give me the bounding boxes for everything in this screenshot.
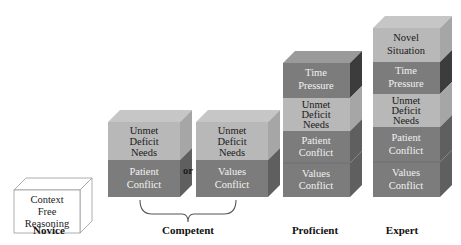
block-label: Unmet bbox=[130, 125, 159, 136]
block-label: Needs bbox=[303, 119, 329, 130]
block-label: Deficit bbox=[129, 136, 158, 147]
block-label: Needs bbox=[219, 147, 245, 158]
block-label: Novel bbox=[393, 32, 419, 43]
stage-label-competent: Competent bbox=[162, 224, 214, 236]
block-label: Needs bbox=[393, 115, 419, 126]
block-label: Situation bbox=[387, 45, 426, 56]
block-label: Values bbox=[392, 167, 420, 178]
competent-stack-b: Unmet Deficit Needs Values Conflict bbox=[196, 110, 280, 197]
block-label: Values bbox=[302, 168, 330, 179]
block-label: Pressure bbox=[388, 78, 424, 89]
or-connector: or bbox=[183, 165, 193, 176]
block-label: Conflict bbox=[389, 145, 423, 156]
stage-label-proficient: Proficient bbox=[292, 224, 339, 236]
block-label: Free bbox=[38, 206, 57, 217]
block-label: Context bbox=[30, 194, 63, 205]
block-label: Pressure bbox=[298, 80, 334, 91]
block-label: Conflict bbox=[389, 180, 423, 191]
block-label: Conflict bbox=[215, 179, 249, 190]
block-label: Conflict bbox=[127, 179, 161, 190]
block-label: Time bbox=[395, 65, 417, 76]
block-label: Time bbox=[305, 67, 327, 78]
block-label: Unmet bbox=[218, 125, 247, 136]
stage-label-expert: Expert bbox=[386, 224, 419, 236]
block-label: Patient bbox=[301, 135, 330, 146]
block-label: Needs bbox=[131, 147, 157, 158]
block-label: Patient bbox=[129, 166, 158, 177]
block-label: Values bbox=[218, 166, 246, 177]
block-label: Conflict bbox=[299, 180, 333, 191]
stage-label-novice: Novice bbox=[33, 224, 65, 236]
block-label: Conflict bbox=[299, 147, 333, 158]
expert-stack: Novel Situation Time Pressure Unmet Defi… bbox=[373, 16, 452, 197]
block-label: Patient bbox=[391, 132, 420, 143]
proficient-stack: Time Pressure Unmet Deficit Needs Patien… bbox=[283, 51, 362, 197]
competent-stack-a: Unmet Deficit Needs Patient Conflict bbox=[108, 110, 192, 197]
skill-stage-diagram: Context Free Reasoning Novice Novice Nov… bbox=[0, 0, 461, 245]
competent-brace bbox=[140, 200, 236, 222]
block-label: Deficit bbox=[217, 136, 246, 147]
